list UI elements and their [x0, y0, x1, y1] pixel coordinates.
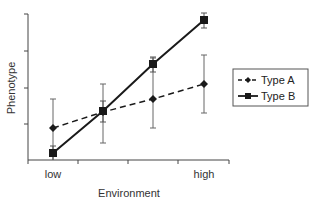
square-marker-icon	[245, 93, 251, 99]
type-a-line	[53, 84, 204, 128]
x-axis	[28, 160, 229, 164]
legend: Type A Type B	[233, 69, 308, 106]
legend-label-type-b: Type B	[261, 90, 295, 102]
x-axis-label: Environment	[98, 187, 160, 199]
x-tick-high: high	[194, 168, 215, 180]
type-b-line	[53, 20, 204, 153]
x-tick-low: low	[45, 168, 62, 180]
line-chart: Phenotype Environment low high	[0, 0, 322, 207]
y-axis-label: Phenotype	[5, 62, 17, 115]
legend-label-type-a: Type A	[261, 74, 295, 86]
y-axis	[24, 14, 28, 160]
type-a-error-bars	[50, 55, 207, 160]
